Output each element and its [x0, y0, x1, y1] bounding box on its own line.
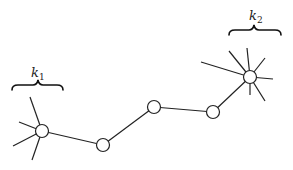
label-k1: k1	[31, 65, 45, 82]
node-hub-k1	[36, 125, 49, 138]
brace-k1	[12, 80, 63, 90]
node-path-4	[207, 106, 220, 119]
node-path-3	[148, 101, 161, 114]
brace-k2	[229, 25, 281, 35]
node-hub-k2	[244, 71, 257, 84]
hub2-spokes	[201, 48, 273, 101]
label-k2: k2	[249, 8, 263, 25]
node-path-2	[97, 139, 110, 152]
graph-diagram: k1 k2	[0, 0, 293, 170]
